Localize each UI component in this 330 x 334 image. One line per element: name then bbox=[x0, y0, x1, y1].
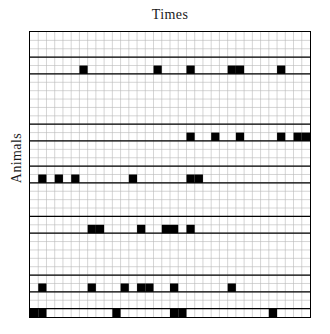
matrix-cell-filled[interactable] bbox=[186, 66, 194, 74]
matrix-cell-filled[interactable] bbox=[38, 283, 46, 291]
matrix-cell-filled[interactable] bbox=[178, 309, 186, 317]
matrix-cell-filled[interactable] bbox=[112, 309, 120, 317]
matrix-cell-filled[interactable] bbox=[170, 225, 178, 233]
matrix-cell-filled[interactable] bbox=[88, 225, 96, 233]
matrix-cell-filled[interactable] bbox=[186, 225, 194, 233]
matrix-cell-filled[interactable] bbox=[277, 133, 285, 141]
matrix-cell-filled[interactable] bbox=[38, 309, 46, 317]
matrix-cell-filled[interactable] bbox=[79, 66, 87, 74]
matrix-cell-filled[interactable] bbox=[88, 283, 96, 291]
matrix-cell-filled[interactable] bbox=[302, 133, 310, 141]
matrix-cell-filled[interactable] bbox=[228, 66, 236, 74]
matrix-cell-filled[interactable] bbox=[294, 133, 302, 141]
matrix-cell-filled[interactable] bbox=[277, 66, 285, 74]
matrix-grid-canvas[interactable] bbox=[30, 32, 310, 317]
matrix-cell-filled[interactable] bbox=[129, 175, 137, 183]
matrix-cell-filled[interactable] bbox=[236, 133, 244, 141]
matrix-cell-filled[interactable] bbox=[30, 309, 38, 317]
matrix-cell-filled[interactable] bbox=[195, 175, 203, 183]
matrix-plot-area[interactable] bbox=[29, 31, 311, 318]
matrix-figure: Times Animals bbox=[0, 0, 330, 334]
matrix-cell-filled[interactable] bbox=[137, 283, 145, 291]
matrix-cell-filled[interactable] bbox=[71, 175, 79, 183]
matrix-cell-filled[interactable] bbox=[269, 309, 277, 317]
matrix-cell-filled[interactable] bbox=[162, 225, 170, 233]
y-axis-title: Animals bbox=[9, 113, 25, 203]
matrix-cell-filled[interactable] bbox=[154, 66, 162, 74]
matrix-cell-filled[interactable] bbox=[186, 175, 194, 183]
matrix-cell-filled[interactable] bbox=[236, 66, 244, 74]
matrix-cell-filled[interactable] bbox=[121, 283, 129, 291]
matrix-cell-filled[interactable] bbox=[38, 175, 46, 183]
matrix-cell-filled[interactable] bbox=[170, 309, 178, 317]
matrix-cell-filled[interactable] bbox=[186, 133, 194, 141]
x-axis-title: Times bbox=[29, 6, 311, 24]
matrix-cell-filled[interactable] bbox=[211, 133, 219, 141]
matrix-cell-filled[interactable] bbox=[228, 283, 236, 291]
matrix-cell-filled[interactable] bbox=[137, 225, 145, 233]
matrix-cell-filled[interactable] bbox=[96, 225, 104, 233]
matrix-cell-filled[interactable] bbox=[145, 283, 153, 291]
matrix-cell-filled[interactable] bbox=[55, 175, 63, 183]
matrix-cell-filled[interactable] bbox=[170, 283, 178, 291]
